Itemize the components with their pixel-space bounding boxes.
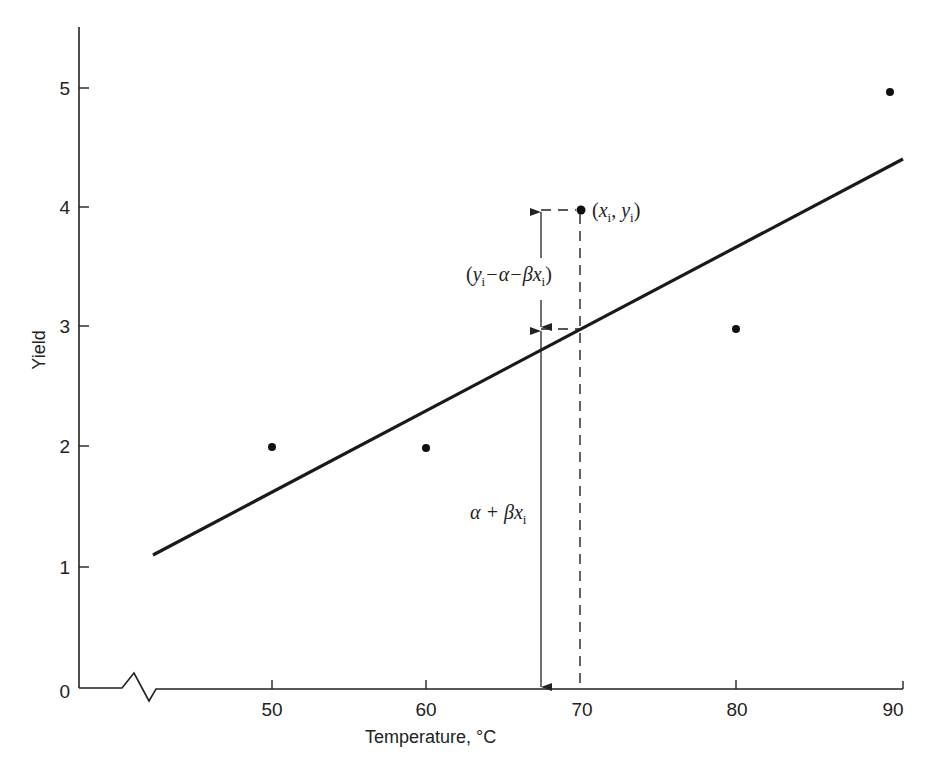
data-point	[732, 325, 740, 333]
fitted-value-annotation: α + βxi	[470, 501, 527, 527]
regression-line	[153, 159, 903, 555]
x-axis-line	[79, 673, 903, 701]
y-tick-label: 1	[59, 557, 70, 578]
data-point	[422, 444, 430, 452]
data-point	[886, 88, 894, 96]
data-point-highlighted	[577, 206, 586, 215]
y-tick-label: 5	[59, 78, 70, 99]
y-tick-label: 0	[59, 681, 70, 702]
x-tick-labels: 50 60 70 80 90	[261, 699, 903, 720]
chart-canvas: 5 4 3 2 1 0 50 60 70 80 90 Temperature, …	[0, 0, 929, 762]
x-tick-label: 90	[882, 699, 903, 720]
x-ticks	[272, 680, 736, 689]
y-tick-labels: 5 4 3 2 1 0	[59, 78, 70, 702]
x-tick-label: 60	[415, 699, 436, 720]
point-annotation: (xi, yi)	[592, 199, 640, 225]
x-tick-label: 50	[261, 699, 282, 720]
y-tick-label: 4	[59, 197, 70, 218]
y-tick-label: 2	[59, 436, 70, 457]
data-point	[268, 443, 276, 451]
x-tick-label: 80	[726, 699, 747, 720]
residual-annotation: (yi−α−βxi)	[466, 263, 552, 289]
y-tick-label: 3	[59, 316, 70, 337]
y-axis-title: Yield	[29, 330, 49, 369]
y-ticks	[79, 88, 89, 567]
x-tick-label: 70	[571, 699, 592, 720]
data-points	[268, 88, 894, 452]
x-axis-title: Temperature, °C	[365, 727, 496, 747]
